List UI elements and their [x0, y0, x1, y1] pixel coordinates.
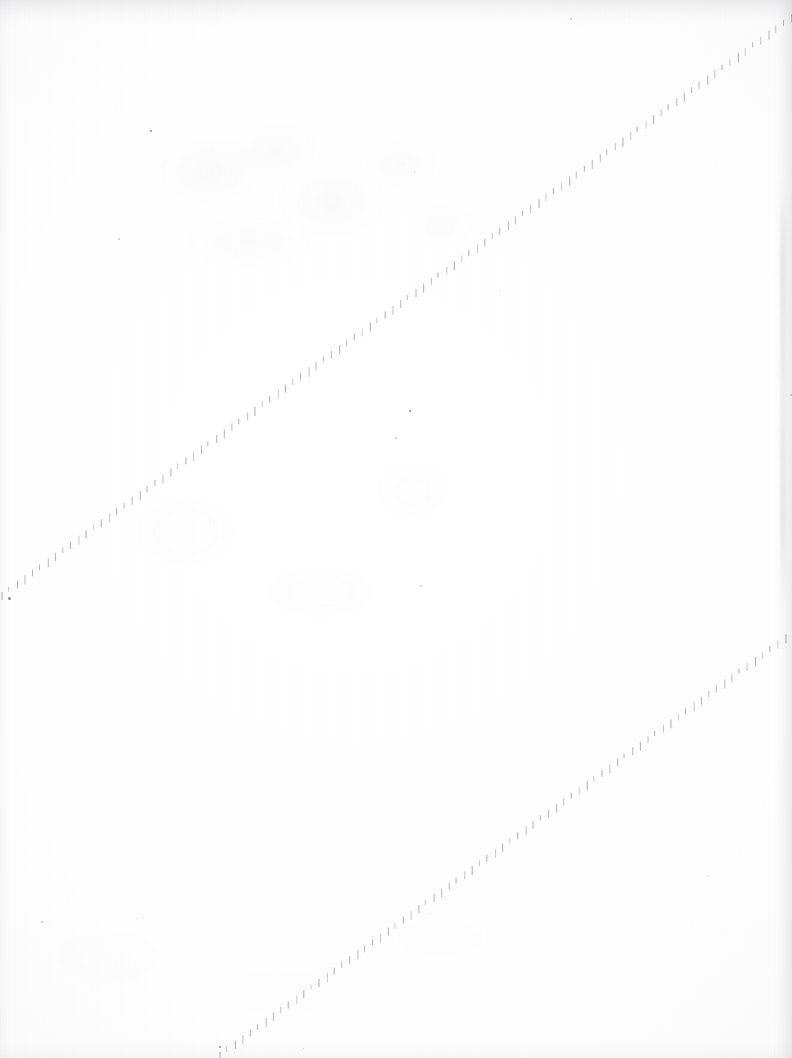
- bottom-scan-shadow: [0, 1042, 792, 1058]
- dust-speck: [409, 410, 411, 412]
- right-edge-streak: [780, 180, 786, 610]
- dust-speck: [41, 921, 43, 923]
- dust-speck: [708, 876, 709, 877]
- dust-speck: [430, 913, 431, 914]
- dust-speck: [414, 172, 415, 173]
- dust-speck: [420, 585, 422, 587]
- left-scan-shadow: [0, 0, 10, 1058]
- dust-speck: [150, 130, 152, 132]
- top-scan-shadow: [0, 0, 792, 26]
- dust-speck: [395, 437, 397, 439]
- dust-speck: [136, 918, 137, 919]
- scanned-page: [0, 0, 792, 1058]
- smudge-upper-left: [150, 120, 480, 290]
- dust-speck: [500, 290, 501, 291]
- dust-speck: [118, 238, 120, 240]
- smudge-lower-left: [40, 880, 540, 1040]
- smudge-mid-left: [60, 440, 480, 670]
